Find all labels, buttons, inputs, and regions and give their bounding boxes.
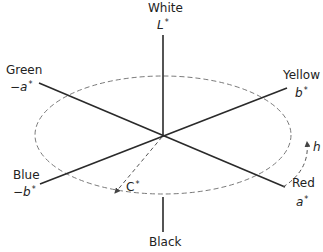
black-label: Black	[149, 236, 181, 249]
negative-b-symbol: −b*	[13, 183, 36, 199]
star-mark: *	[32, 185, 36, 194]
hue-symbol-text: h	[313, 140, 321, 154]
blue-label: Blue	[13, 169, 40, 182]
lightness-symbol: L*	[157, 16, 169, 32]
star-mark: *	[304, 86, 308, 95]
yellow-label: Yellow	[283, 69, 320, 82]
a-symbol: a*	[296, 193, 308, 209]
negative-a-symbol-text: −a	[10, 80, 27, 94]
negative-b-symbol-text: −b	[13, 185, 31, 199]
lab-color-space-diagram	[0, 0, 323, 252]
hue-symbol: h	[313, 141, 321, 154]
star-mark: *	[165, 18, 169, 27]
lightness-symbol-text: L	[157, 18, 164, 32]
b-symbol: b*	[295, 84, 308, 100]
star-mark: *	[304, 195, 308, 204]
star-mark: *	[28, 80, 32, 89]
white-label: White	[148, 2, 183, 15]
a-axis-line	[39, 83, 285, 187]
negative-a-symbol: −a*	[10, 78, 32, 94]
green-label: Green	[6, 64, 42, 77]
b-symbol-text: b	[295, 86, 303, 100]
red-label: Red	[292, 177, 315, 190]
chroma-symbol: C*	[126, 178, 139, 194]
chroma-symbol-text: C	[126, 180, 134, 194]
star-mark: *	[135, 180, 139, 189]
a-symbol-text: a	[296, 195, 303, 209]
